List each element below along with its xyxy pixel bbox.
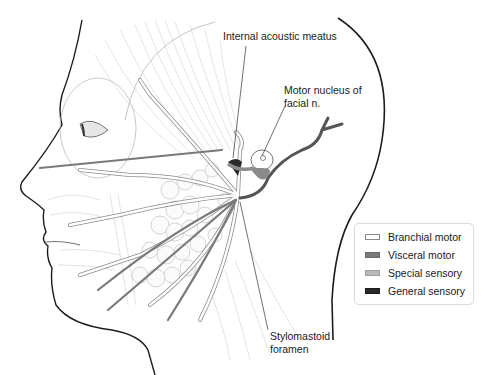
legend-label: General sensory <box>388 285 465 297</box>
legend-label: Visceral motor <box>388 249 455 261</box>
legend-label: Branchial motor <box>388 231 462 243</box>
legend-item-branchial-motor: Branchial motor <box>365 230 462 244</box>
label-motor-nucleus-line1: Motor nucleus of <box>284 84 362 97</box>
facial-nerve-diagram <box>0 0 490 375</box>
label-stylomastoid-line2: foramen <box>270 343 330 356</box>
legend: Branchial motor Visceral motor Special s… <box>354 223 474 305</box>
legend-label: Special sensory <box>388 267 462 279</box>
label-motor-nucleus-line2: facial n. <box>284 97 362 110</box>
label-stylomastoid-line1: Stylomastoid <box>270 330 330 343</box>
lips <box>45 241 80 245</box>
legend-item-visceral-motor: Visceral motor <box>365 248 455 262</box>
special-sensory-swatch <box>365 270 380 276</box>
leader-lines <box>233 46 285 330</box>
temporal-muscle-fibres <box>95 20 244 154</box>
face-profile-outline <box>21 20 155 375</box>
branchial-motor-swatch <box>365 234 380 240</box>
general-sensory-swatch <box>365 288 380 294</box>
label-motor-nucleus: Motor nucleus of facial n. <box>284 84 362 110</box>
visceral-motor-swatch <box>365 252 380 258</box>
legend-item-special-sensory: Special sensory <box>365 266 462 280</box>
label-internal-acoustic-meatus: Internal acoustic meatus <box>223 30 337 43</box>
temporal-line <box>125 22 215 120</box>
parotid-gland <box>132 163 232 287</box>
label-stylomastoid-foramen: Stylomastoid foramen <box>270 330 330 356</box>
legend-item-general-sensory: General sensory <box>365 284 465 298</box>
motor-nucleus-region <box>228 150 273 180</box>
